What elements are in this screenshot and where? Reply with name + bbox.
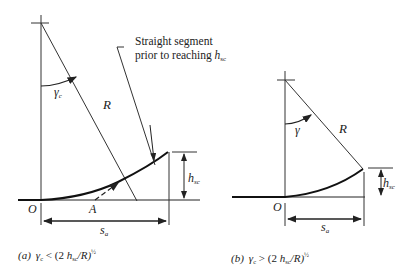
height-label-a: hsc (188, 171, 201, 186)
angle-label-a: γc (54, 85, 63, 100)
transition-curve-b (285, 169, 363, 197)
callout-text-line1: Straight segment (135, 35, 213, 48)
callout-leader (117, 47, 155, 165)
callout-text-line2: prior to reaching hsc (135, 49, 226, 63)
tangent-dashed (95, 183, 118, 200)
caption-a: (a)γc < (2 hsc/R)½ (18, 248, 96, 262)
figure-a: γc R Straight segment prior to reaching … (18, 15, 226, 262)
angle-label-b: γ (295, 123, 300, 137)
figure-b: γ R hsc O sa (b)γc > (2 hsc/R)½ (231, 71, 396, 265)
span-label-b: sa (321, 220, 330, 235)
origin-label-a: O (28, 202, 37, 216)
diagram-canvas: γc R Straight segment prior to reaching … (0, 0, 415, 271)
origin-label-b: O (273, 200, 282, 214)
radius-label-a: R (102, 97, 111, 112)
span-label-a: sa (100, 223, 109, 238)
radius-line (41, 23, 137, 201)
radius-label-b: R (338, 121, 347, 136)
point-a-label: A (88, 202, 97, 216)
caption-b: (b)γc > (2 hsc/R)½ (231, 251, 309, 265)
height-label-b: hsc (383, 176, 396, 191)
